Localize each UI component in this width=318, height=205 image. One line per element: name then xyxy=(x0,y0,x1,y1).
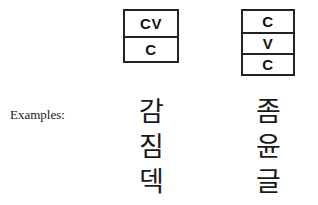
example-syllable: 좀 xyxy=(256,94,281,129)
examples-label: Examples: xyxy=(10,108,65,121)
example-syllable: 감 xyxy=(139,94,164,129)
structure-cell-v-middle: V xyxy=(243,32,293,53)
example-column-c-v-c: 좀 윤 글 xyxy=(240,94,296,199)
structure-cell-c-bottom: C xyxy=(243,53,293,74)
example-column-cv-c: 감 짐 덱 xyxy=(123,94,179,199)
syllable-structure-box-c-v-c: C V C xyxy=(241,9,295,76)
example-syllable: 덱 xyxy=(139,164,164,199)
example-syllable: 짐 xyxy=(139,129,164,164)
example-syllable: 윤 xyxy=(256,129,281,164)
structure-cell-c: C xyxy=(125,36,177,61)
example-syllable: 글 xyxy=(256,164,281,199)
structure-cell-cv: CV xyxy=(125,11,177,36)
structure-cell-c-top: C xyxy=(243,11,293,32)
figure-canvas: CV C C V C Examples: 감 짐 덱 좀 윤 글 xyxy=(0,0,318,205)
syllable-structure-box-cv-c: CV C xyxy=(123,9,179,63)
